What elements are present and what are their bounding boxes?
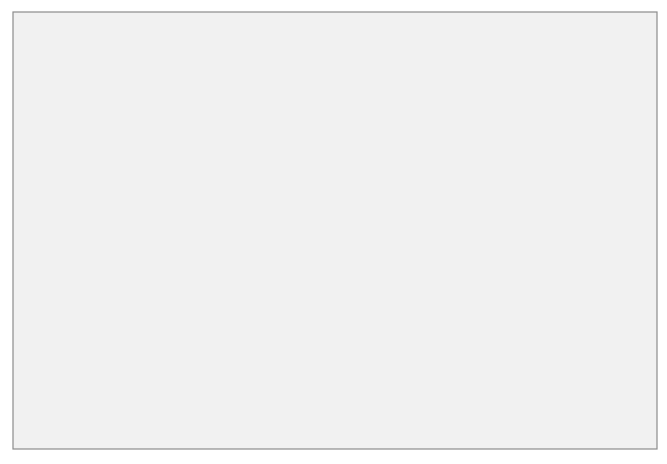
diagram-frame [13,12,657,449]
thermoregulation-diagram [0,0,667,464]
